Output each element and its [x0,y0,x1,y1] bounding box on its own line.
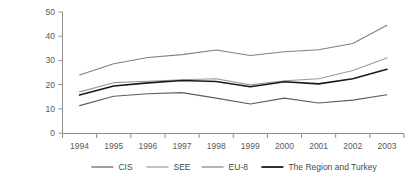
y-axis-ticks: 01020304050 [46,7,63,138]
legend-label-the-region-and-turkey: The Region and Turkey [288,162,377,172]
series-line-eu-8 [80,25,387,75]
y-tick-label: 20 [46,80,56,90]
y-tick-label: 40 [46,31,56,41]
y-tick-label: 0 [50,128,55,138]
x-tick-label: 2001 [309,141,328,151]
y-tick-label: 50 [46,7,56,17]
series-line-cis [80,93,387,106]
x-tick-label: 1994 [70,141,89,151]
chart-container: Imports and exports as % of GDP (PPP) 01… [0,0,414,180]
y-tick-label: 30 [46,55,56,65]
x-tick-label: 1995 [104,141,123,151]
x-tick-label: 2000 [275,141,294,151]
legend-label-eu-8: EU-8 [229,162,249,172]
line-chart-plot: 01020304050 1994199519961997199819992000… [0,0,414,180]
x-tick-label: 1996 [138,141,157,151]
chart-legend: CISSEEEU-8The Region and Turkey [91,162,377,172]
y-tick-label: 10 [46,104,56,114]
series-line-see [80,58,387,92]
x-axis-ticks: 1994199519961997199819992000200120022003 [63,134,405,152]
x-tick-label: 1998 [207,141,226,151]
x-tick-label: 2003 [377,141,396,151]
legend-label-cis: CIS [118,162,132,172]
data-series-group [80,25,387,105]
x-tick-label: 2002 [343,141,362,151]
x-tick-label: 1997 [173,141,192,151]
legend-label-see: SEE [174,162,191,172]
x-tick-label: 1999 [241,141,260,151]
